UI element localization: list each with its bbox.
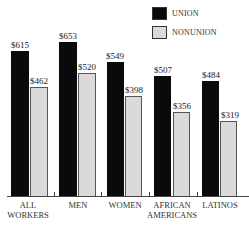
value-label-union-latinos: $484	[196, 70, 226, 80]
legend-item-nonunion: NONUNION	[152, 26, 217, 39]
value-label-nonunion-all-workers: $462	[24, 76, 54, 86]
bar-nonunion-men	[78, 73, 96, 196]
x-axis	[7, 196, 249, 197]
category-label-line: WORKERS	[3, 210, 53, 220]
value-label-nonunion-women: $398	[119, 85, 149, 95]
category-label-african-americans: AFRICAN AMERICANS	[147, 200, 197, 220]
category-label-line: LATINOS	[195, 200, 245, 210]
legend-label-nonunion: NONUNION	[172, 28, 217, 37]
value-label-union-african-americans: $507	[148, 65, 178, 75]
value-label-nonunion-men: $520	[72, 62, 102, 72]
category-label-men: MEN	[53, 200, 103, 210]
bar-nonunion-african-americans	[173, 112, 190, 196]
bar-nonunion-latinos	[220, 121, 237, 196]
category-label-line: WOMEN	[100, 200, 150, 210]
legend-label-union: UNION	[172, 9, 199, 18]
value-label-union-women: $549	[100, 51, 130, 61]
value-label-union-men: $653	[53, 31, 83, 41]
bar-nonunion-all-workers	[30, 87, 48, 196]
bar-union-latinos	[202, 81, 219, 196]
category-label-all-workers: ALL WORKERS	[3, 200, 53, 220]
bar-union-all-workers	[11, 51, 29, 196]
legend-swatch-union	[152, 7, 167, 20]
value-label-nonunion-african-americans: $356	[167, 101, 197, 111]
bar-union-african-americans	[154, 76, 171, 196]
bar-union-women	[107, 62, 124, 196]
category-label-latinos: LATINOS	[195, 200, 245, 210]
category-label-line: AFRICAN	[147, 200, 197, 210]
category-label-line: ALL	[3, 200, 53, 210]
category-label-line: AMERICANS	[147, 210, 197, 220]
category-label-women: WOMEN	[100, 200, 150, 210]
value-label-union-all-workers: $615	[5, 40, 35, 50]
value-label-nonunion-latinos: $319	[215, 110, 245, 120]
bar-nonunion-women	[125, 96, 142, 196]
legend-swatch-nonunion	[152, 26, 167, 39]
category-label-line: MEN	[53, 200, 103, 210]
legend-item-union: UNION	[152, 7, 199, 20]
